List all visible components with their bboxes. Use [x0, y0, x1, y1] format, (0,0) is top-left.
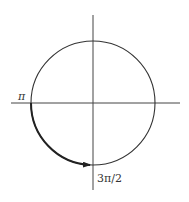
unit-circle-diagram: π 3π/2: [0, 0, 189, 202]
label-3pi-over-2: 3π/2: [97, 172, 122, 185]
arc-pi-to-3pi-2: [31, 103, 90, 165]
label-pi: π: [17, 90, 26, 103]
